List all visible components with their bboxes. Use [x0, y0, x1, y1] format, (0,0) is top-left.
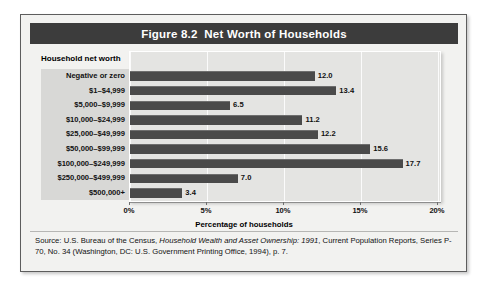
bar [130, 101, 230, 110]
table-row: $25,000–$49,999 12.2 [30, 127, 458, 142]
source-title: Household Wealth and Asset Ownership: 19… [159, 236, 318, 245]
bar-value-label: 6.5 [233, 98, 244, 113]
category-label: $10,000–$24,999 [30, 113, 125, 128]
bar-value-label: 12.2 [321, 127, 336, 142]
x-axis-line [129, 202, 441, 203]
x-tick-label-0: 0% [124, 206, 135, 215]
x-axis: 0% 5% 10% 15% 20% [129, 202, 441, 220]
bar [130, 144, 370, 153]
source-prefix: Source: U.S. Bureau of the Census, [35, 236, 159, 245]
figure-title: Figure 8.2 Net Worth of Households [141, 28, 347, 40]
x-tick-label-20: 20% [429, 206, 444, 215]
table-row: $50,000–$99,999 15.6 [30, 142, 458, 157]
x-tick-mark-15 [360, 202, 361, 205]
table-row: $10,000–$24,999 11.2 [30, 113, 458, 128]
x-tick-label-10: 10% [275, 206, 290, 215]
table-row: $1–$4,999 13.4 [30, 84, 458, 99]
category-label: $1–$4,999 [30, 84, 125, 99]
bar [130, 130, 318, 139]
x-tick-mark-20 [437, 202, 438, 205]
bar [130, 86, 336, 95]
figure-title-banner: Figure 8.2 Net Worth of Households [30, 23, 458, 44]
bar [130, 71, 315, 80]
table-row: Negative or zero 12.0 [30, 69, 458, 84]
x-tick-mark-10 [283, 202, 284, 205]
x-tick-label-5: 5% [201, 206, 212, 215]
category-label: $250,000–$499,999 [30, 171, 125, 186]
chart-area: Household net worth Negative or zero 12.… [30, 51, 458, 219]
bar-value-label: 13.4 [339, 84, 354, 99]
category-label: Negative or zero [30, 69, 125, 84]
x-tick-label-15: 15% [352, 206, 367, 215]
bar-value-label: 3.4 [185, 186, 196, 201]
bar-value-label: 17.7 [406, 157, 421, 172]
bar [130, 188, 182, 197]
x-axis-title: Percentage of households [30, 220, 458, 229]
bar [130, 159, 403, 168]
bar-value-label: 12.0 [318, 69, 333, 84]
table-row: $100,000–$249,999 17.7 [30, 157, 458, 172]
category-label: $50,000–$99,999 [30, 142, 125, 157]
category-label: $25,000–$49,999 [30, 127, 125, 142]
category-label: $100,000–$249,999 [30, 157, 125, 172]
bar-value-label: 7.0 [241, 171, 252, 186]
category-axis-label: Household net worth [41, 54, 121, 63]
bar [130, 174, 238, 183]
x-tick-mark-0 [129, 202, 130, 205]
bar-value-label: 11.2 [305, 113, 319, 128]
table-row: $250,000–$499,999 7.0 [30, 171, 458, 186]
category-label: $5,000–$9,999 [30, 98, 125, 113]
bar-value-label: 15.6 [373, 142, 388, 157]
table-row: $500,000+ 3.4 [30, 186, 458, 201]
bar [130, 115, 302, 124]
source-note: Source: U.S. Bureau of the Census, House… [35, 235, 455, 257]
figure-frame: Figure 8.2 Net Worth of Households House… [20, 14, 467, 272]
table-row: $5,000–$9,999 6.5 [30, 98, 458, 113]
source-divider [30, 231, 458, 232]
category-label: $500,000+ [30, 186, 125, 201]
bar-rows: Negative or zero 12.0 $1–$4,999 13.4 $5,… [30, 69, 458, 200]
x-tick-mark-5 [206, 202, 207, 205]
